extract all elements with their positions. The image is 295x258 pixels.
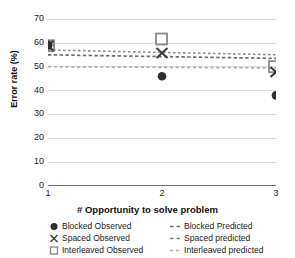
dashed-line-dark-icon: [168, 221, 184, 232]
x-tick-2: 2: [152, 188, 172, 198]
legend-column-predicted: Blocked Predicted Spaced predicted Inter…: [168, 221, 286, 257]
y-tick-30: 30: [22, 109, 44, 118]
y-axis-tick-labels: 70 60 50 40 30 20 10 0: [22, 0, 44, 258]
x-tick-3: 3: [266, 188, 286, 198]
gridlines: [48, 20, 276, 163]
legend-label-spaced-predicted: Spaced predicted: [184, 233, 250, 244]
legend-label-blocked-predicted: Blocked Predicted: [184, 221, 253, 232]
filled-circle-marker-icon: [46, 221, 62, 232]
legend-item-blocked-predicted: Blocked Predicted: [168, 221, 286, 232]
plot-svg: [48, 19, 276, 186]
plot-area: [48, 19, 276, 186]
x-axis-tick-labels: 1 2 3: [0, 188, 295, 202]
x-tick-1: 1: [38, 188, 58, 198]
legend-item-blocked-observed: Blocked Observed: [46, 221, 156, 232]
chart-legend: Blocked Observed Spaced Observed In: [46, 221, 286, 257]
y-tick-60: 60: [22, 38, 44, 47]
legend-item-interleaved-observed: Interleaved Observed: [46, 245, 156, 256]
y-axis-title: Error rate (%): [9, 31, 19, 127]
dashed-line-light-icon: [168, 245, 184, 256]
series-line-spaced-predicted: [48, 55, 276, 59]
y-tick-10: 10: [22, 157, 44, 166]
legend-item-spaced-predicted: Spaced predicted: [168, 233, 286, 244]
chart-figure: Error rate (%) 70 60 50 40 30 20 10 0: [0, 0, 295, 258]
open-square-marker-icon: [46, 245, 62, 256]
legend-label-interleaved-observed: Interleaved Observed: [62, 245, 143, 256]
x-axis-title: # Opportunity to solve problem: [0, 204, 295, 215]
legend-item-interleaved-predicted: Interleaved predicted: [168, 245, 286, 256]
y-tick-20: 20: [22, 133, 44, 142]
y-tick-50: 50: [22, 62, 44, 71]
legend-column-observed: Blocked Observed Spaced Observed In: [46, 221, 156, 257]
dashed-line-mid-icon: [168, 233, 184, 244]
legend-item-spaced-observed: Spaced Observed: [46, 233, 156, 244]
legend-label-blocked-observed: Blocked Observed: [62, 221, 131, 232]
legend-label-interleaved-predicted: Interleaved predicted: [184, 245, 263, 256]
legend-label-spaced-observed: Spaced Observed: [62, 233, 130, 244]
series-markers-spaced-observed: [48, 41, 276, 77]
y-tick-70: 70: [22, 14, 44, 23]
cross-x-marker-icon: [46, 233, 62, 244]
y-tick-40: 40: [22, 86, 44, 95]
